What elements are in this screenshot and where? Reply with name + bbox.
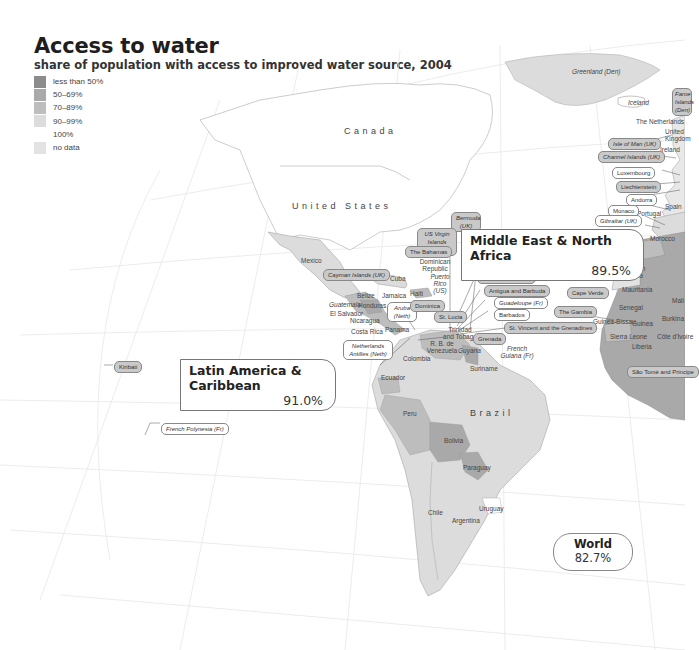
- label-grenada: Grenada: [473, 333, 506, 345]
- label-trinidad: Trinidad and Tobago: [443, 326, 477, 340]
- label-guinea-bissau: Guinea-Bissau: [593, 318, 636, 325]
- label-guatemala: Guatemala: [329, 301, 361, 308]
- label-belize: Belize: [357, 292, 375, 299]
- label-united-kingdom: United Kingdom: [665, 128, 685, 142]
- label-honduras: Honduras: [358, 302, 386, 309]
- label-el-salvador: El Salvador: [330, 310, 363, 317]
- label-gibraltar: Gibraltar (UK): [595, 215, 642, 227]
- label-uruguay: Uruguay: [479, 505, 504, 512]
- label-ecuador: Ecuador: [381, 374, 405, 381]
- label-cuba: Cuba: [390, 275, 406, 282]
- label-guyana: Guyana: [458, 347, 481, 354]
- label-colombia: Colombia: [403, 355, 430, 362]
- label-cote-divoire: Côte d'Ivoire: [657, 333, 693, 340]
- label-mali: Mali: [672, 297, 684, 304]
- label-senegal: Senegal: [619, 304, 643, 311]
- country-label-united-states: United States: [292, 201, 392, 211]
- north-america-shape: [200, 83, 493, 250]
- label-iceland: Iceland: [628, 99, 649, 106]
- label-st-lucia: St. Lucia: [434, 311, 467, 323]
- south-america-shape: [372, 330, 550, 596]
- world-value: 82.7%: [554, 551, 632, 565]
- label-venezuela: R. B. de Venezuela: [425, 340, 459, 354]
- label-peru: Peru: [403, 410, 417, 417]
- label-antigua: Antigua and Barbuda: [484, 285, 550, 297]
- region-value: 89.5%: [470, 263, 631, 278]
- label-paraguay: Paraguay: [463, 464, 491, 471]
- label-panama: Panama: [385, 326, 409, 333]
- world-name: World: [554, 537, 632, 551]
- world-callout: World 82.7%: [553, 533, 633, 571]
- label-sierra-leone: Sierra Leone: [610, 333, 647, 340]
- region-callout-mena: Middle East & North Africa 89.5%: [461, 229, 644, 281]
- label-cayman: Cayman Islands (UK): [323, 269, 390, 281]
- label-jamaica: Jamaica: [382, 292, 406, 299]
- label-isle-of-man: Isle of Man (UK): [608, 138, 661, 150]
- label-netherlands-antilles: Netherlands Antilles (Neth): [343, 340, 393, 360]
- label-nicaragua: Nicaragua: [350, 317, 380, 324]
- region-callout-latin-america: Latin America & Caribbean 91.0%: [180, 359, 336, 411]
- label-faroe: Faroe Islands (Den): [672, 88, 692, 116]
- label-liechtenstein: Liechtenstein: [616, 181, 661, 193]
- label-st-vincent: St. Vincent and the Grenadines: [504, 322, 597, 334]
- label-bolivia: Bolivia: [444, 437, 463, 444]
- label-gambia: The Gambia: [554, 306, 597, 318]
- label-channel-islands: Channel Islands (UK): [598, 151, 665, 163]
- label-luxembourg: Luxembourg: [612, 167, 655, 179]
- label-suriname: Suriname: [470, 365, 498, 372]
- region-value: 91.0%: [189, 393, 323, 408]
- label-dominican-republic: Dominican Republic: [415, 258, 455, 272]
- label-mauritania: Mauritania: [622, 286, 652, 293]
- label-cape-verde: Cape Verde: [567, 287, 609, 299]
- label-morocco: Morocco: [650, 235, 675, 242]
- label-guinea: Guinea: [632, 320, 653, 327]
- label-argentina: Argentina: [452, 517, 480, 524]
- label-spain: Spain: [665, 203, 682, 210]
- label-haiti: Haiti: [410, 290, 423, 297]
- region-name: Latin America & Caribbean: [189, 363, 323, 393]
- label-puerto-rico: Puerto Rico (US): [427, 273, 453, 294]
- label-netherlands: The Netherlands: [636, 118, 684, 125]
- country-label-canada: Canada: [344, 126, 397, 136]
- label-costa-rica: Costa Rica: [351, 328, 383, 335]
- label-burkina: Burkina: [662, 315, 684, 322]
- label-sao-tome: São Tomé and Principe: [627, 366, 699, 378]
- label-chile: Chile: [428, 509, 443, 516]
- label-bahamas: The Bahamas: [405, 246, 452, 258]
- label-barbados: Barbados: [494, 309, 530, 321]
- label-french-guiana: French Guiana (Fr): [497, 345, 537, 359]
- label-greenland: Greenland (Den): [572, 68, 620, 75]
- label-liberia: Liberia: [632, 343, 652, 350]
- region-name: Middle East & North Africa: [470, 233, 631, 263]
- label-french-polynesia: French Polynesia (Fr): [161, 423, 229, 435]
- label-kiribati: Kiribati: [114, 361, 142, 373]
- country-label-brazil: Brazil: [470, 408, 514, 418]
- label-guadeloupe: Guadeloupe (Fr): [494, 297, 548, 309]
- label-mexico: Mexico: [301, 257, 322, 264]
